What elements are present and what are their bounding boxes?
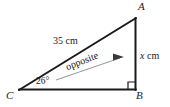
unknown-side-label: x cm xyxy=(140,51,159,61)
vertex-label-c: C xyxy=(6,90,13,101)
vertex-label-b: B xyxy=(136,90,143,101)
triangle-diagram: A B C 35 cm opposite x cm 26° xyxy=(0,0,170,107)
right-angle-icon xyxy=(128,82,135,89)
vertex-label-a: A xyxy=(138,1,145,12)
arrow-icon xyxy=(113,54,124,61)
angle-label: 26° xyxy=(36,77,49,87)
unknown-side-unit: cm xyxy=(147,50,159,61)
hypotenuse-label: 35 cm xyxy=(53,36,78,46)
